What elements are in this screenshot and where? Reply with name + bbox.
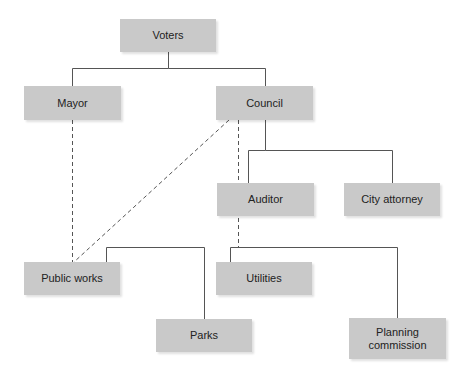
- node-mayor: Mayor: [24, 86, 121, 120]
- node-label: Planning commission: [368, 326, 426, 352]
- edge-publicworks-parks: [107, 248, 205, 320]
- org-chart-diagram: Voters Mayor Council Auditor City attorn…: [0, 0, 467, 374]
- node-city-attorney: City attorney: [344, 183, 440, 216]
- edge-council-auditor-attorney: [249, 120, 393, 183]
- edge-council-publicworks-dashed: [74, 120, 229, 262]
- node-label: City attorney: [361, 193, 423, 206]
- node-council: Council: [216, 86, 313, 120]
- node-label: Utilities: [246, 272, 281, 285]
- node-label: Council: [246, 97, 283, 110]
- edge-voters-mayor-council: [73, 52, 266, 86]
- node-label: Public works: [41, 272, 103, 285]
- node-parks: Parks: [156, 319, 252, 352]
- node-utilities: Utilities: [216, 262, 312, 295]
- node-voters: Voters: [120, 19, 216, 52]
- node-planning-commission: Planning commission: [349, 318, 446, 359]
- node-label: Auditor: [248, 193, 283, 206]
- node-label: Mayor: [57, 97, 88, 110]
- node-auditor: Auditor: [217, 183, 314, 216]
- node-public-works: Public works: [24, 262, 120, 295]
- node-label: Voters: [152, 29, 183, 42]
- node-label: Parks: [190, 329, 218, 342]
